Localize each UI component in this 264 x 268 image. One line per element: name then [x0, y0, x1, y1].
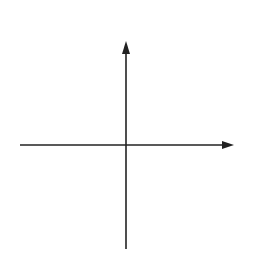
x-axis-arrow-icon — [222, 141, 234, 149]
axes — [20, 41, 234, 249]
y-axis-arrow-icon — [122, 41, 130, 54]
coordinate-plane — [0, 0, 264, 268]
